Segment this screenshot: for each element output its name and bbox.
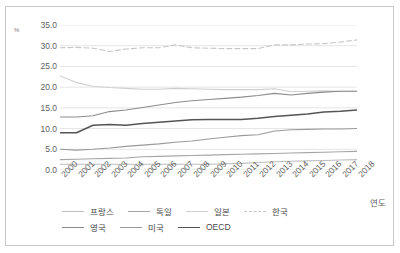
legend-label-한국: 한국 — [272, 205, 288, 217]
legend-label-일본: 일본 — [214, 205, 230, 217]
y-axis-tick-label: 35.0 — [40, 20, 57, 30]
chart-screenshot: % 0.05.010.015.020.025.030.035.0 2000200… — [0, 0, 400, 253]
legend-item-독일[interactable]: 독일 — [128, 205, 172, 217]
x-axis-title: 연도 — [370, 196, 386, 208]
legend-item-일본[interactable]: 일본 — [186, 205, 230, 217]
y-axis-tick-label: 15.0 — [40, 103, 57, 113]
x-axis-tick-labels: 2000200120022003200420052006200720082009… — [60, 172, 357, 202]
legend-item-한국[interactable]: 한국 — [244, 205, 288, 217]
legend-swatch-한국 — [244, 211, 266, 212]
plot-svg — [60, 25, 357, 170]
legend-item-프랑스[interactable]: 프랑스 — [62, 205, 114, 217]
legend-swatch-프랑스 — [62, 211, 84, 212]
y-axis-unit-label: % — [14, 27, 19, 33]
y-axis-tick-label: 30.0 — [40, 41, 57, 51]
series-line-일본 — [60, 76, 357, 92]
legend-swatch-미국 — [120, 227, 142, 228]
legend-label-미국: 미국 — [148, 221, 164, 233]
legend-item-영국[interactable]: 영국 — [62, 221, 106, 233]
y-axis-tick-labels: 0.05.010.015.020.025.030.035.0 — [22, 25, 57, 170]
plot-area — [60, 25, 357, 170]
y-axis-tick-label: 20.0 — [40, 82, 57, 92]
legend-swatch-OECD — [178, 227, 200, 228]
legend-swatch-독일 — [128, 211, 150, 212]
legend-row-2: 영국미국OECD — [62, 219, 332, 235]
legend-row-1: 프랑스독일일본한국 — [62, 203, 332, 219]
y-axis-tick-label: 5.0 — [45, 144, 57, 154]
series-line-미국 — [60, 129, 357, 151]
legend-label-OECD: OECD — [206, 222, 231, 232]
legend-item-OECD[interactable]: OECD — [178, 222, 231, 232]
y-axis-tick-label: 25.0 — [40, 61, 57, 71]
chart-legend: 프랑스독일일본한국 영국미국OECD — [62, 203, 332, 235]
legend-label-영국: 영국 — [90, 221, 106, 233]
legend-label-프랑스: 프랑스 — [90, 205, 114, 217]
y-axis-tick-label: 0.0 — [45, 165, 57, 175]
legend-label-독일: 독일 — [156, 205, 172, 217]
legend-swatch-일본 — [186, 211, 208, 212]
y-axis-tick-label: 10.0 — [40, 124, 57, 134]
legend-item-미국[interactable]: 미국 — [120, 221, 164, 233]
legend-swatch-영국 — [62, 227, 84, 228]
